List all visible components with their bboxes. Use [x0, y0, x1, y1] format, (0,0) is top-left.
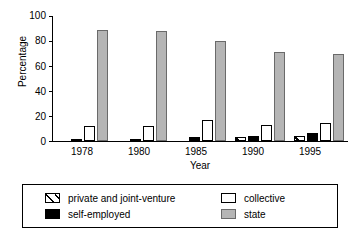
legend-item-self-employed: self-employed: [45, 209, 221, 220]
y-tick-mark-100: [49, 16, 53, 17]
legend-item-state: state: [221, 209, 360, 220]
x-tick-label-1990: 1990: [223, 146, 283, 157]
legend-label-state: state: [244, 209, 266, 220]
chart-legend: private and joint-venture collective sel…: [22, 184, 338, 228]
x-tick-label-1980: 1980: [109, 146, 169, 157]
bar-private-1990: [235, 137, 246, 141]
y-tick-label-60: 60: [20, 62, 46, 72]
y-tick-label-0: 0: [20, 137, 46, 147]
y-tick-label-40: 40: [20, 87, 46, 97]
bar-collective-1985: [202, 120, 213, 141]
x-axis-title: Year: [52, 160, 348, 171]
bar-collective-1978: [84, 126, 95, 141]
y-tick-label-80: 80: [20, 36, 46, 46]
bar-self-employed-1985: [189, 137, 200, 141]
bar-state-1995: [333, 54, 344, 141]
bar-state-1980: [156, 31, 167, 141]
plot-area: [52, 16, 348, 142]
x-tick-label-1978: 1978: [52, 146, 112, 157]
bar-collective-1990: [261, 125, 272, 141]
bar-self-employed-1990: [248, 136, 259, 141]
hatched-swatch-icon: [45, 193, 60, 203]
legend-item-private-and-joint-venture: private and joint-venture: [45, 193, 221, 204]
y-tick-mark-40: [49, 91, 53, 92]
x-tick-label-1985: 1985: [166, 146, 226, 157]
bar-self-employed-1978: [71, 139, 82, 141]
y-tick-mark-80: [49, 41, 53, 42]
gray-swatch-icon: [221, 209, 236, 219]
bar-collective-1995: [320, 123, 331, 141]
bar-private-1995: [294, 136, 305, 141]
bar-state-1978: [97, 30, 108, 141]
bar-collective-1980: [143, 126, 154, 141]
bar-state-1990: [274, 52, 285, 141]
legend-label-self-employed: self-employed: [68, 209, 130, 220]
legend-label-collective: collective: [244, 193, 285, 204]
black-swatch-icon: [45, 209, 60, 219]
white-swatch-icon: [221, 193, 236, 203]
legend-item-collective: collective: [221, 193, 360, 204]
y-tick-label-100: 100: [20, 11, 46, 21]
y-tick-label-20: 20: [20, 112, 46, 122]
y-tick-mark-60: [49, 66, 53, 67]
x-tick-label-1995: 1995: [280, 146, 340, 157]
bar-chart: Percentage 100 80 60 40 20 0 1978 1980 1…: [0, 0, 360, 233]
y-tick-mark-20: [49, 116, 53, 117]
bar-self-employed-1995: [307, 133, 318, 141]
bar-state-1985: [215, 41, 226, 141]
legend-label-private: private and joint-venture: [68, 193, 175, 204]
bar-self-employed-1980: [130, 139, 141, 141]
y-tick-mark-0: [49, 141, 53, 142]
